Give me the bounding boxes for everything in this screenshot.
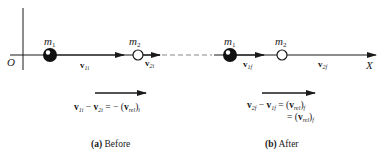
m2-before-ball [133, 50, 143, 60]
m2-after-label: m2 [275, 36, 286, 49]
before-equation: v1i − v2i = − (vrel)i [74, 103, 140, 113]
after-equation-line1: v2f − v1f = (vrel)f [247, 101, 305, 111]
caption-after: (b) After [265, 140, 299, 150]
m1-before-ball [43, 48, 57, 62]
m2-before-label: m2 [129, 36, 140, 49]
v2f-label: v2f [318, 60, 327, 70]
collision-diagram [0, 0, 384, 159]
m1-after-ball [223, 48, 237, 62]
x-axis-label: X [366, 60, 373, 71]
v2i-label: v2i [145, 59, 154, 69]
m1-after-label: m1 [224, 36, 235, 49]
caption-before: (a) Before [91, 140, 130, 150]
after-equation-line2: = (vrel)f [287, 113, 314, 123]
v1f-label: v1f [243, 60, 252, 70]
origin-label: O [7, 57, 15, 68]
v1i-label: v1i [80, 61, 89, 71]
m1-before-label: m1 [44, 36, 55, 49]
m2-after-ball [277, 50, 287, 60]
